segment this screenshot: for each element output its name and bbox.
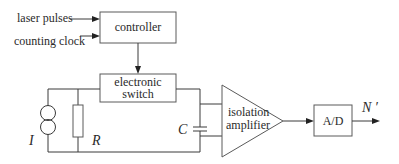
control-arrowhead (135, 66, 141, 74)
switch-label-line2: switch (122, 87, 153, 101)
amplifier-label-line1: isolation (228, 105, 269, 119)
counting-clock-label: counting clock (14, 34, 85, 48)
output-arrowhead (372, 118, 380, 124)
amp-output-arrowhead (306, 118, 314, 124)
current-source-icon (41, 106, 56, 121)
capacitor-label: C (178, 122, 188, 137)
counting-clock-arrowhead (92, 33, 100, 39)
resistor-icon (73, 105, 83, 137)
laser-pulses-arrowhead (92, 16, 100, 22)
controller-label: controller (115, 20, 162, 34)
resistor-label: R (91, 133, 101, 148)
adc-label: A/D (323, 114, 344, 128)
laser-pulses-label: laser pulses (17, 11, 73, 25)
current-source-label: I (28, 133, 35, 148)
amplifier-label-line2: amplifier (226, 118, 270, 132)
block-diagram: laser pulses counting clock controller e… (0, 0, 399, 164)
output-label: N ′ (361, 100, 379, 115)
current-source-icon-lower (41, 120, 56, 135)
